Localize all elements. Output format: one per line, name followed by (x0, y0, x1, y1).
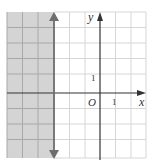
y-axis-label: y (87, 10, 94, 24)
shaded-region (7, 12, 54, 158)
x-tick-label: 1 (112, 97, 117, 107)
y-axis-arrow-icon (97, 12, 103, 21)
y-tick-label: 1 (91, 73, 96, 83)
inequality-graph: y x O 1 1 (0, 0, 148, 166)
origin-label: O (88, 96, 96, 108)
x-axis-label: x (138, 95, 145, 109)
